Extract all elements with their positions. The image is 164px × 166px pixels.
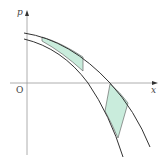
p-axis-arrow-icon	[25, 10, 29, 16]
upper-curve	[24, 33, 150, 147]
diagram: p O x	[0, 0, 164, 166]
origin-label: O	[16, 85, 23, 95]
lower-shaded-region	[105, 84, 128, 138]
x-axis-label: x	[151, 85, 156, 95]
p-axis-label: p	[17, 7, 23, 17]
